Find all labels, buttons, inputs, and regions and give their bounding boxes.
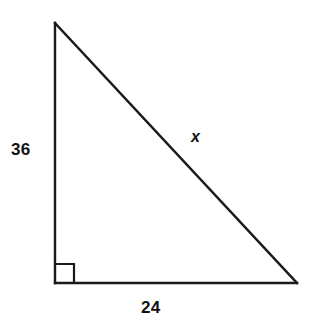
side-label-horizontal-leg: 24	[141, 298, 160, 318]
right-triangle-figure	[0, 0, 315, 333]
side-label-vertical-leg: 36	[11, 140, 30, 160]
side-label-hypotenuse: x	[191, 128, 200, 146]
